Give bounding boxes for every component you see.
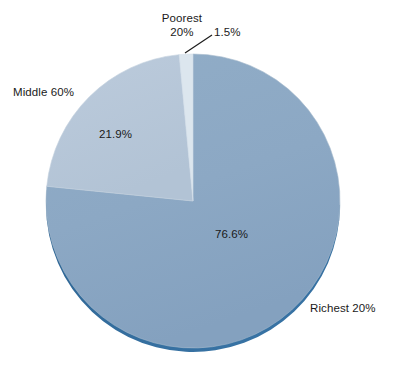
slice-value-middle: 21.9% xyxy=(99,128,132,142)
slice-label-poorest-line1: Poorest xyxy=(162,12,202,24)
slice-value-richest: 76.6% xyxy=(215,228,248,242)
slice-label-poorest: Poorest 20% xyxy=(143,12,221,39)
slice-label-richest: Richest 20% xyxy=(310,302,376,316)
slice-value-poorest: 1.5% xyxy=(214,26,241,40)
pie-chart-graphic xyxy=(0,0,398,378)
slice-label-poorest-line2: 20% xyxy=(143,26,221,40)
pie-chart: Poorest 20% 1.5% Middle 60% 21.9% 76.6% … xyxy=(0,0,398,378)
slice-label-middle: Middle 60% xyxy=(13,86,74,100)
